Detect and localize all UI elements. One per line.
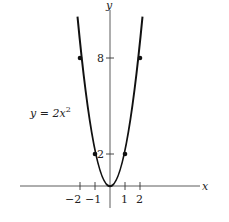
parabola-chart: x y −2 −1 1 2 8 2 y = 2x2 bbox=[0, 0, 229, 222]
tick-label-neg2: −2 bbox=[65, 193, 81, 206]
tick-label-2: 2 bbox=[136, 193, 143, 206]
equation-label: y = 2x2 bbox=[29, 105, 71, 120]
equation-main: y = 2x bbox=[29, 107, 66, 120]
x-axis-label: x bbox=[202, 180, 209, 193]
tick-label-neg1: −1 bbox=[85, 193, 101, 206]
equation-exponent: 2 bbox=[66, 105, 71, 114]
tick-label-1: 1 bbox=[121, 193, 128, 206]
y-axis-label: y bbox=[105, 0, 113, 12]
ytick-label-2: 2 bbox=[97, 148, 104, 161]
ytick-label-8: 8 bbox=[97, 52, 104, 65]
